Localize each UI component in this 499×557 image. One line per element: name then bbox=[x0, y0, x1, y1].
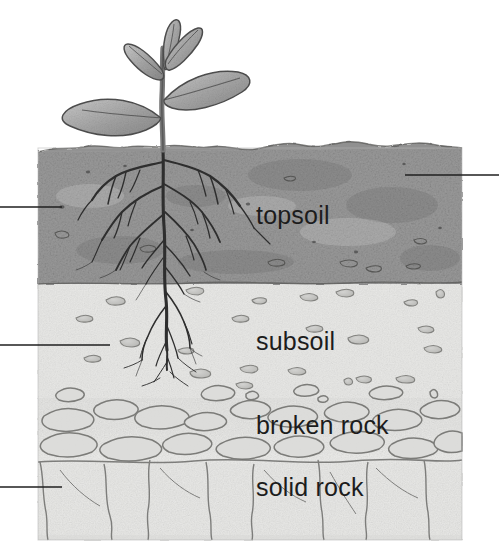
label-solid-rock: solid rock bbox=[256, 473, 364, 501]
leaf-mid-right bbox=[164, 71, 250, 110]
seedling-plant bbox=[62, 20, 250, 150]
label-broken-rock: broken rock bbox=[256, 411, 389, 439]
label-topsoil: topsoil bbox=[256, 201, 330, 229]
soil-profile-illustration: topsoil subsoil broken rock solid rock bbox=[0, 0, 499, 557]
leaf-upper-left bbox=[124, 44, 164, 80]
label-subsoil: subsoil bbox=[256, 327, 335, 355]
leaf-lower-left bbox=[62, 99, 161, 136]
soil-block bbox=[38, 142, 462, 540]
soil-profile-figure: topsoil subsoil broken rock solid rock bbox=[0, 0, 499, 557]
topsoil-layer bbox=[38, 142, 462, 284]
solid-rock-layer bbox=[38, 462, 462, 540]
